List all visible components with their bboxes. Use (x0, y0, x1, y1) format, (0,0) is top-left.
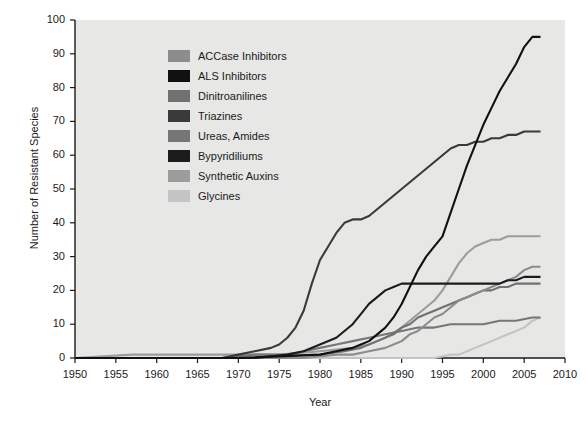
legend-color-swatch (168, 130, 190, 142)
legend-color-swatch (168, 90, 190, 102)
x-tick-label: 1950 (53, 368, 97, 380)
x-tick-label: 1995 (421, 368, 465, 380)
legend-color-swatch (168, 70, 190, 82)
axis-tick-marks (70, 20, 565, 363)
y-tick-label: 0 (31, 351, 65, 363)
data-series-group (75, 37, 541, 358)
legend-color-swatch (168, 110, 190, 122)
x-tick-label: 2010 (543, 368, 587, 380)
x-tick-label: 1985 (339, 368, 383, 380)
legend-label: Synthetic Auxins (198, 170, 279, 182)
y-axis-title: Number of Resistant Species (28, 68, 40, 288)
x-tick-label: 1975 (257, 368, 301, 380)
legend-item[interactable]: Bypyridiliums (168, 146, 287, 165)
legend-item[interactable]: Glycines (168, 186, 287, 205)
legend-item[interactable]: ACCase Inhibitors (168, 46, 287, 65)
series-line (75, 277, 541, 358)
legend-color-swatch (168, 150, 190, 162)
legend-item[interactable]: Synthetic Auxins (168, 166, 287, 185)
y-tick-label: 100 (31, 13, 65, 25)
x-tick-label: 1965 (176, 368, 220, 380)
legend-label: ACCase Inhibitors (198, 50, 287, 62)
legend-label: Bypyridiliums (198, 150, 263, 162)
x-tick-label: 1955 (94, 368, 138, 380)
x-axis-title: Year (75, 396, 565, 408)
legend-label: Triazines (198, 110, 242, 122)
legend-item[interactable]: Triazines (168, 106, 287, 125)
legend-label: Dinitroanilines (198, 90, 267, 102)
chart-container: 0102030405060708090100 19501955196019651… (0, 0, 588, 422)
chart-svg (0, 0, 588, 422)
chart-legend: ACCase InhibitorsALS InhibitorsDinitroan… (168, 46, 287, 206)
x-tick-label: 1960 (135, 368, 179, 380)
y-tick-label: 10 (31, 317, 65, 329)
legend-item[interactable]: Ureas, Amides (168, 126, 287, 145)
y-tick-label: 90 (31, 47, 65, 59)
x-tick-label: 1970 (216, 368, 260, 380)
legend-color-swatch (168, 190, 190, 202)
legend-item[interactable]: Dinitroanilines (168, 86, 287, 105)
x-tick-label: 2005 (502, 368, 546, 380)
series-line (75, 267, 541, 358)
legend-label: Glycines (198, 190, 240, 202)
x-tick-label: 1980 (298, 368, 342, 380)
legend-color-swatch (168, 50, 190, 62)
x-tick-label: 1990 (380, 368, 424, 380)
axis-lines (75, 20, 565, 358)
legend-label: Ureas, Amides (198, 130, 270, 142)
legend-label: ALS Inhibitors (198, 70, 266, 82)
legend-item[interactable]: ALS Inhibitors (168, 66, 287, 85)
series-line (75, 37, 541, 358)
x-tick-label: 2000 (461, 368, 505, 380)
legend-color-swatch (168, 170, 190, 182)
